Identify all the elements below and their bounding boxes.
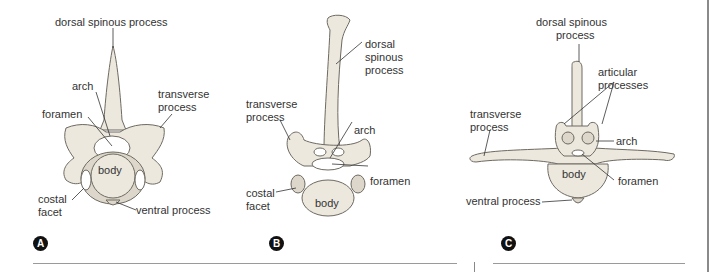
label-arch: arch <box>72 80 93 93</box>
label-transverse-process-line2: process <box>246 111 285 124</box>
label-body: body <box>562 168 586 181</box>
panel-b-vertebra: dorsal spinous process transverse proces… <box>232 0 464 272</box>
label-dorsal-spinous-process: dorsal spinous process <box>55 16 168 29</box>
label-dorsal-spinous-process-line1: dorsal <box>365 38 395 51</box>
label-transverse-process-line1: transverse <box>246 98 297 111</box>
label-transverse-process-line2: process <box>470 121 509 134</box>
label-foramen: foramen <box>42 108 82 121</box>
column-divider-tick <box>474 262 475 272</box>
label-dorsal-spinous-process-line2: spinous <box>365 51 403 64</box>
label-costal-facet-line2: facet <box>38 206 62 219</box>
label-transverse-process-line1: transverse <box>470 108 521 121</box>
label-transverse-process-line1: transverse <box>158 88 209 101</box>
label-costal-facet-line1: costal <box>246 187 275 200</box>
label-dorsal-spinous-process-line3: process <box>365 64 404 77</box>
bottom-rule-right <box>493 263 685 264</box>
label-body: body <box>98 164 122 177</box>
label-dorsal-spinous-process-line1: dorsal spinous <box>536 16 607 29</box>
panel-badge-c: C <box>501 236 516 251</box>
label-ventral-process: ventral process <box>136 204 211 217</box>
label-costal-facet-line2: facet <box>246 200 270 213</box>
label-arch: arch <box>354 124 375 137</box>
label-foramen: foramen <box>370 175 410 188</box>
label-arch: arch <box>616 135 637 148</box>
panel-badge-b: B <box>269 236 284 251</box>
label-dorsal-spinous-process-line2: process <box>556 29 595 42</box>
label-transverse-process-line2: process <box>158 101 197 114</box>
label-ventral-process: ventral process <box>466 195 541 208</box>
label-articular-processes-line2: processes <box>598 79 648 92</box>
panel-c-vertebra: dorsal spinous process articular process… <box>464 0 684 272</box>
bottom-rule-left <box>33 263 457 264</box>
label-articular-processes-line1: articular <box>598 66 637 79</box>
vertebra-b-illustration <box>232 0 464 272</box>
panel-a-vertebra: dorsal spinous process arch transverse p… <box>0 0 232 272</box>
label-body: body <box>315 197 339 210</box>
panel-badge-a: A <box>33 236 48 251</box>
vertebra-a-illustration <box>0 0 232 272</box>
label-costal-facet-line1: costal <box>38 193 67 206</box>
right-edge-rule <box>707 0 709 272</box>
label-foramen: foramen <box>618 175 658 188</box>
